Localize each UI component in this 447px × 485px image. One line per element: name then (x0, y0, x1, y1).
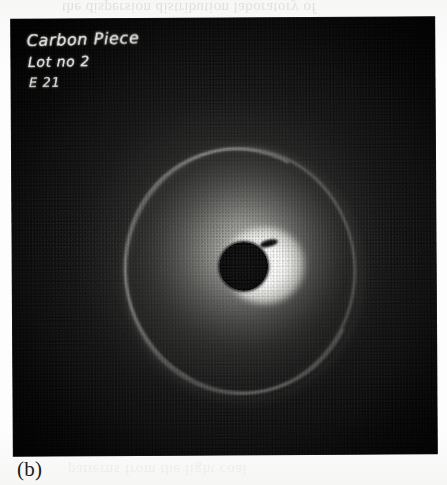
bleed-through-text-bottom: patterns from the light coal (68, 458, 440, 478)
annotation-line-sample-name: Carbon Piece (27, 28, 140, 51)
scanned-page: the dispersion distribution laboratory o… (0, 0, 447, 485)
handwritten-annotation-block: Carbon Piece Lot no 2 E 21 (27, 31, 140, 93)
beam-stop-disc (219, 242, 268, 291)
figure-label: (b) (17, 456, 42, 482)
annotation-line-exposure-code: E 21 (29, 73, 142, 93)
annotation-line-lot-number: Lot no 2 (28, 51, 141, 72)
bleed-through-text-top: the dispersion distribution laboratory o… (62, 0, 442, 16)
diffraction-photograph: Carbon Piece Lot no 2 E 21 (11, 17, 438, 457)
